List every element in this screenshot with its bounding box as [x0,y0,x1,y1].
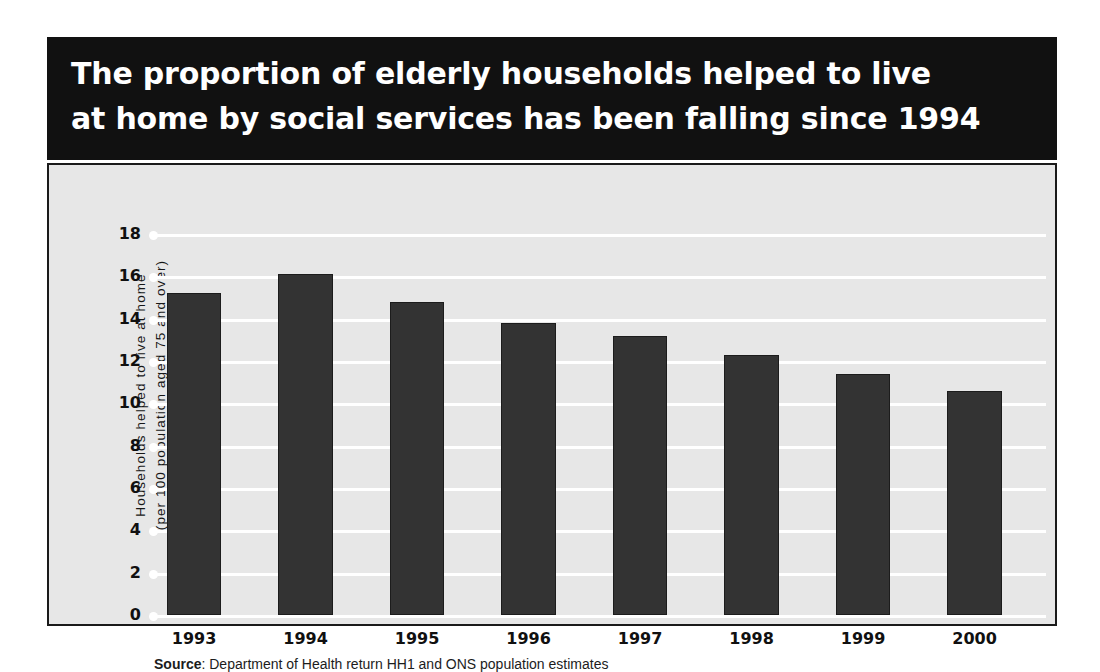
y-axis-tick-label: 0 [130,605,141,624]
x-axis-tick-label-2000: 2000 [952,629,997,648]
source-separator: : [201,656,205,672]
y-axis-tick-label: 16 [119,266,141,285]
chart-plot-panel: Households helped to live at home (per 1… [47,163,1057,626]
chart-title-banner: The proportion of elderly households hel… [47,37,1057,160]
bar-series: 19931994199519961997199819992000 [154,234,1046,615]
bar-1998 [724,355,778,615]
gridline-0: 0 [154,615,1046,618]
x-axis-tick-label-1999: 1999 [841,629,886,648]
bar-group-1995: 1995 [390,234,444,615]
source-note: Source: Department of Health return HH1 … [154,656,608,672]
bar-1995 [390,302,444,615]
plot-area: 181614121086420 199319941995199619971998… [154,234,1046,615]
y-axis-tick-label: 12 [119,351,141,370]
y-axis-tick-label: 10 [119,393,141,412]
bar-1999 [836,374,890,615]
x-axis-tick-label-1994: 1994 [283,629,328,648]
chart-figure: The proportion of elderly households hel… [47,37,1057,626]
bar-1996 [501,323,555,615]
y-axis-tick-label: 2 [130,563,141,582]
x-axis-tick-label-1996: 1996 [506,629,551,648]
y-axis-tick-label: 4 [130,520,141,539]
x-axis-tick-label-1997: 1997 [618,629,663,648]
x-axis-tick-label-1995: 1995 [395,629,440,648]
x-axis-tick-label-1998: 1998 [729,629,774,648]
source-text: Department of Health return HH1 and ONS … [209,656,608,672]
y-axis-tick-label: 14 [119,309,141,328]
bar-2000 [947,391,1001,615]
bar-1997 [613,336,667,615]
bar-group-1996: 1996 [501,234,555,615]
bar-group-1999: 1999 [836,234,890,615]
bar-group-2000: 2000 [947,234,1001,615]
x-axis-tick-label-1993: 1993 [172,629,217,648]
bar-1994 [278,274,332,615]
chart-title-line-1: The proportion of elderly households hel… [71,51,1035,96]
bar-group-1993: 1993 [167,234,221,615]
source-label: Source [154,656,201,672]
y-axis-tick-label: 18 [119,224,141,243]
bar-group-1998: 1998 [724,234,778,615]
bar-group-1994: 1994 [278,234,332,615]
chart-title-line-2: at home by social services has been fall… [71,96,1035,141]
y-axis-tick-label: 6 [130,478,141,497]
bar-1993 [167,293,221,615]
y-axis-tick-label: 8 [130,436,141,455]
bar-group-1997: 1997 [613,234,667,615]
